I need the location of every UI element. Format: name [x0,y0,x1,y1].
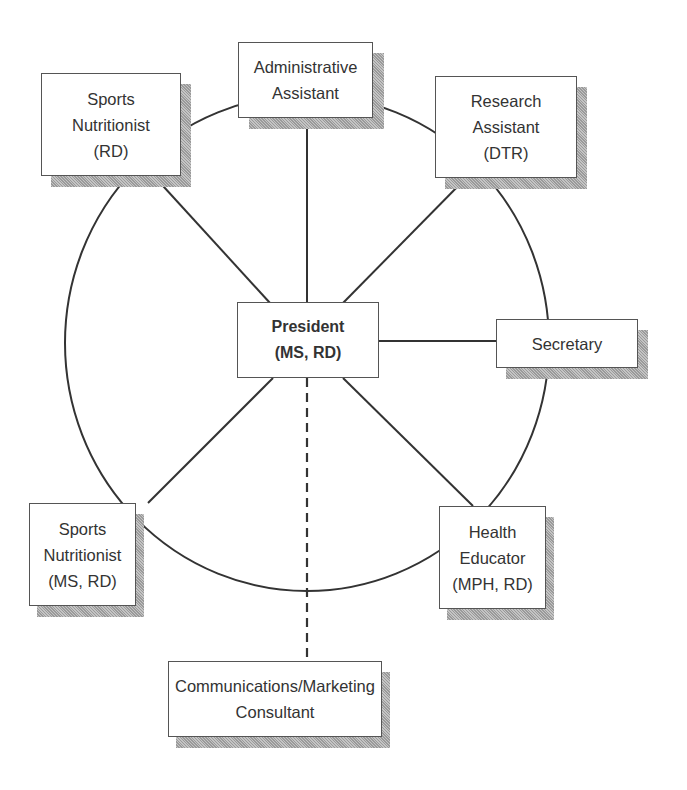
box: Research Assistant (DTR) [435,76,577,178]
label-line: Assistant [473,114,540,140]
label-line: Educator [459,545,525,571]
label-line: Sports [59,516,107,542]
label-line: Administrative [254,54,358,80]
label-line: Nutritionist [72,112,150,138]
label-line: Research [471,88,542,114]
node-sports-nutritionist-ms[interactable]: Sports Nutritionist (MS, RD) [29,503,136,606]
node-secretary[interactable]: Secretary [496,319,638,368]
spoke-research [343,178,466,303]
box: Health Educator (MPH, RD) [439,506,546,609]
label-line: (RD) [94,138,129,164]
label-line: President [272,314,345,340]
spoke-sports-rd [153,175,270,303]
node-president[interactable]: President (MS, RD) [237,302,379,378]
box: President (MS, RD) [237,302,379,378]
label-line: (MS, RD) [275,340,342,366]
box: Secretary [496,319,638,368]
label-line: Communications/Marketing [175,673,375,699]
box: Communications/Marketing Consultant [168,661,382,737]
spoke-sports-ms [148,378,273,503]
label-line: (MS, RD) [48,568,117,594]
label-line: Consultant [236,699,315,725]
node-admin-assistant[interactable]: Administrative Assistant [238,42,373,118]
node-research-assistant[interactable]: Research Assistant (DTR) [435,76,577,178]
spoke-health [343,378,473,506]
label-line: Sports [87,86,135,112]
label-line: (DTR) [484,140,529,166]
node-comm-consultant[interactable]: Communications/Marketing Consultant [168,661,382,737]
label-line: Assistant [272,80,339,106]
box: Sports Nutritionist (RD) [41,73,181,176]
node-health-educator[interactable]: Health Educator (MPH, RD) [439,506,546,609]
label-line: Health [469,519,517,545]
label-line: (MPH, RD) [452,571,533,597]
box: Administrative Assistant [238,42,373,118]
label-line: Nutritionist [44,542,122,568]
node-sports-nutritionist-rd[interactable]: Sports Nutritionist (RD) [41,73,181,176]
box: Sports Nutritionist (MS, RD) [29,503,136,606]
label-line: Secretary [532,331,603,357]
